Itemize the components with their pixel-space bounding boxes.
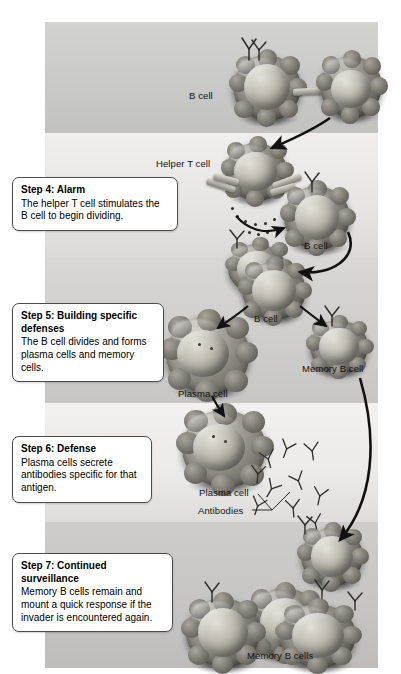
organelle-speck: [224, 440, 227, 443]
organelle-speck: [198, 343, 201, 346]
receptor-icon: [294, 512, 316, 534]
receptor-icon: [226, 226, 248, 248]
callout-step-4: Step 4: Alarm The helper T cell stimulat…: [12, 177, 178, 231]
label-plasma-cell-step6: Plasma cell: [199, 487, 249, 498]
cell-highlight: [237, 58, 278, 80]
step-6-body: Plasma cells secrete antibodies specific…: [21, 457, 143, 495]
plasma-cell-step5: [166, 316, 250, 394]
cell-highlight: [324, 58, 361, 79]
cytokine-dot-icon: [266, 231, 269, 234]
label-memory-b-cells: Memory B cells: [247, 650, 313, 661]
antibody-icon: [308, 483, 332, 507]
receptor-icon: [320, 302, 344, 326]
cell-highlight: [246, 264, 284, 284]
b-cell-step5: [242, 262, 306, 320]
cell-highlight: [190, 601, 234, 625]
label-antibodies: Antibodies: [198, 505, 243, 516]
organelle-speck: [210, 347, 213, 350]
step-4-body: The helper T cell stimulates the B cell …: [21, 198, 169, 224]
receptor-icon: [300, 168, 324, 192]
cytokine-dot-icon: [244, 220, 247, 223]
step-5-body: The B cell divides and forms plasma cell…: [21, 336, 155, 374]
step-7-body: Memory B cells remain and mount a quick …: [21, 586, 164, 624]
step-6-title: Step 6: Defense: [21, 443, 143, 456]
label-b-cell-step4: B cell: [304, 240, 328, 251]
receptor-icon: [344, 588, 366, 610]
callout-step-7: Step 7: Continued surveillance Memory B …: [12, 553, 173, 632]
step-7-title: Step 7: Continued surveillance: [21, 560, 164, 585]
cell-highlight: [171, 319, 221, 346]
cytokine-dot-icon: [236, 215, 239, 218]
cytokine-dot-icon: [257, 233, 260, 236]
receptor-icon: [200, 578, 224, 602]
cytokine-dot-icon: [231, 207, 234, 210]
cytokine-dot-icon: [273, 218, 276, 221]
cell-highlight: [229, 145, 266, 165]
receptor-icon: [248, 36, 270, 60]
b-cell-top-left: [233, 55, 301, 121]
step-5-title: Step 5: Building specific defenses: [21, 310, 155, 335]
label-plasma-cell-step5: Plasma cell: [178, 388, 228, 399]
label-b-cell-top: B cell: [189, 90, 213, 101]
b-cell-top-right: [320, 56, 382, 118]
cytokine-dot-icon: [248, 231, 251, 234]
label-b-cell-step5: B cell: [254, 313, 278, 324]
callout-step-5: Step 5: Building specific defenses The B…: [12, 303, 164, 382]
antibody-icon: [301, 439, 324, 462]
label-helper-t-cell: Helper T cell: [156, 158, 210, 169]
callout-step-6: Step 6: Defense Plasma cells secrete ant…: [12, 436, 152, 503]
step-4-title: Step 4: Alarm: [21, 184, 169, 197]
label-memory-b-cell: Memory B cell: [302, 363, 363, 374]
antibody-icon: [247, 462, 269, 484]
cytokine-dot-icon: [264, 222, 267, 225]
cytokine-dot-icon: [254, 223, 257, 226]
cytokine-dot-icon: [276, 227, 279, 230]
receptor-icon: [310, 576, 334, 600]
cell-highlight: [285, 607, 331, 629]
